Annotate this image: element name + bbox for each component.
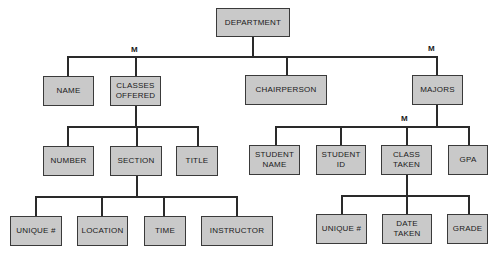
connector-line [341, 195, 469, 197]
node-unique-2: UNIQUE # [316, 214, 367, 244]
connector-line [35, 196, 37, 216]
connector-line [136, 176, 138, 196]
node-classes-offered: CLASSES OFFERED [110, 76, 161, 106]
connector-line [468, 195, 470, 214]
multiplicity-marker-class-taken: M [401, 114, 408, 123]
multiplicity-marker-classes-offered: M [131, 45, 138, 54]
connector-line [252, 37, 254, 57]
connector-line [135, 106, 137, 126]
hierarchy-diagram: MMM DEPARTMENTNAMECLASSES OFFEREDCHAIRPE… [0, 0, 498, 256]
connector-line [468, 126, 470, 145]
node-student-id: STUDENT ID [316, 145, 366, 175]
connector-line [136, 126, 138, 146]
node-name: NAME [43, 76, 94, 106]
connector-line [341, 195, 343, 214]
connector-line [67, 56, 437, 58]
connector-line [163, 196, 165, 216]
connector-line [406, 195, 408, 214]
connector-line [436, 105, 438, 126]
connector-line [67, 56, 69, 76]
connector-line [67, 126, 69, 146]
connector-line [35, 196, 237, 198]
node-instructor: INSTRUCTOR [201, 216, 273, 246]
node-class-taken: CLASS TAKEN [381, 145, 432, 175]
connector-line [197, 126, 199, 146]
node-title: TITLE [176, 146, 218, 176]
connector-line [436, 56, 438, 75]
node-chairperson: CHAIRPERSON [245, 75, 327, 105]
node-gpa: GPA [448, 145, 488, 175]
node-majors: MAJORS [412, 75, 463, 105]
connector-line [67, 126, 198, 128]
connector-line [135, 56, 137, 76]
connector-line [406, 175, 408, 195]
connector-line [286, 56, 288, 75]
node-number: NUMBER [43, 146, 94, 176]
connector-line [236, 196, 238, 216]
node-grade: GRADE [447, 214, 488, 244]
connector-line [275, 126, 277, 145]
node-student-name: STUDENT NAME [249, 145, 300, 175]
connector-line [101, 196, 103, 216]
node-section: SECTION [110, 146, 162, 176]
node-time: TIME [144, 216, 186, 246]
node-date-taken: DATE TAKEN [382, 214, 432, 244]
connector-line [406, 126, 408, 145]
connector-line [340, 126, 342, 145]
connector-line [275, 126, 469, 128]
multiplicity-marker-majors: M [428, 44, 435, 53]
node-location: LOCATION [77, 216, 128, 246]
node-department: DEPARTMENT [216, 8, 290, 37]
node-unique-1: UNIQUE # [10, 216, 62, 246]
